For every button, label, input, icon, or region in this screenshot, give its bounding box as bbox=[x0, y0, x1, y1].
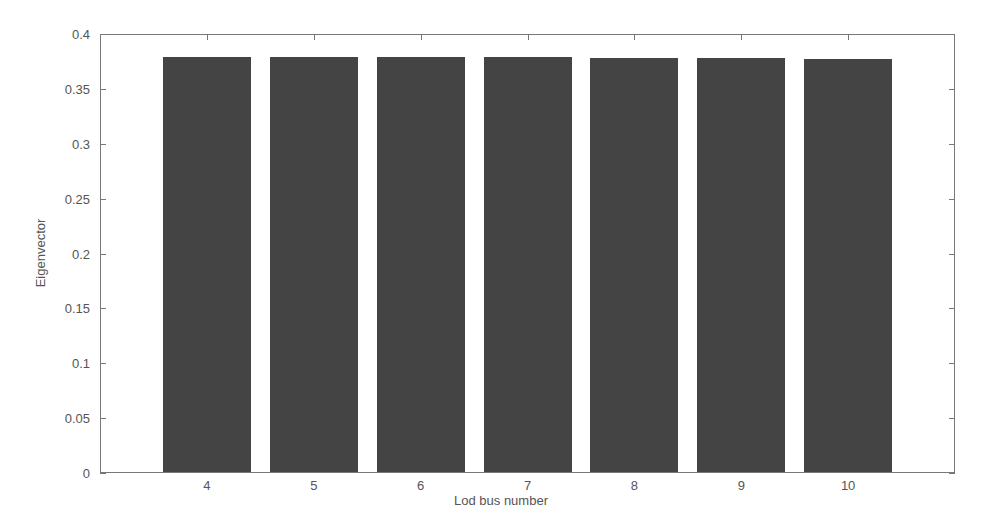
y-tick-label: 0 bbox=[83, 466, 90, 481]
x-axis-label: Lod bus number bbox=[0, 493, 982, 508]
y-tick-mark-right bbox=[949, 144, 955, 145]
bar-7 bbox=[484, 57, 572, 472]
x-tick-label: 8 bbox=[631, 478, 638, 493]
y-tick-mark-right bbox=[949, 418, 955, 419]
y-tick-mark bbox=[100, 144, 106, 145]
bar-4 bbox=[163, 57, 251, 473]
y-tick-label: 0.1 bbox=[72, 356, 90, 371]
y-tick-label: 0.25 bbox=[65, 191, 90, 206]
x-tick-label: 10 bbox=[841, 478, 855, 493]
y-axis-label: Eigenvector bbox=[33, 219, 48, 288]
bar-10 bbox=[804, 59, 892, 472]
y-tick-mark bbox=[100, 363, 106, 364]
y-tick-label: 0.3 bbox=[72, 136, 90, 151]
x-tick-mark bbox=[848, 34, 849, 40]
x-tick-mark bbox=[207, 34, 208, 40]
y-tick-mark-right bbox=[949, 89, 955, 90]
y-tick-mark bbox=[100, 418, 106, 419]
y-tick-label: 0.4 bbox=[72, 27, 90, 42]
plot-area bbox=[100, 34, 955, 473]
y-tick-mark bbox=[100, 473, 106, 474]
y-tick-mark-right bbox=[949, 254, 955, 255]
y-tick-mark-right bbox=[949, 199, 955, 200]
y-tick-mark bbox=[100, 34, 106, 35]
y-tick-mark-right bbox=[949, 34, 955, 35]
y-tick-mark bbox=[100, 254, 106, 255]
y-tick-mark bbox=[100, 199, 106, 200]
y-tick-mark-right bbox=[949, 308, 955, 309]
x-tick-label: 4 bbox=[203, 478, 210, 493]
y-tick-mark bbox=[100, 308, 106, 309]
y-tick-mark-right bbox=[949, 473, 955, 474]
x-tick-label: 6 bbox=[417, 478, 424, 493]
x-tick-label: 5 bbox=[310, 478, 317, 493]
x-tick-mark bbox=[634, 34, 635, 40]
x-tick-mark bbox=[314, 34, 315, 40]
y-tick-label: 0.35 bbox=[65, 81, 90, 96]
bar-5 bbox=[270, 57, 358, 473]
bar-9 bbox=[697, 58, 785, 472]
x-tick-label: 7 bbox=[524, 478, 531, 493]
x-tick-label: 9 bbox=[738, 478, 745, 493]
x-tick-mark bbox=[528, 34, 529, 40]
y-tick-mark-right bbox=[949, 363, 955, 364]
y-tick-label: 0.2 bbox=[72, 246, 90, 261]
bar-6 bbox=[377, 57, 465, 472]
bar-8 bbox=[590, 58, 678, 472]
x-tick-mark bbox=[421, 34, 422, 40]
x-tick-mark bbox=[741, 34, 742, 40]
y-tick-label: 0.15 bbox=[65, 301, 90, 316]
y-tick-mark bbox=[100, 89, 106, 90]
y-tick-label: 0.05 bbox=[65, 411, 90, 426]
